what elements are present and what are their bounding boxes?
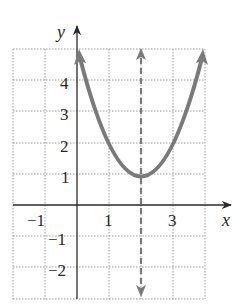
grid	[13, 49, 205, 299]
x-tick-m1: −1	[27, 211, 45, 230]
y-tick-m1: −1	[48, 230, 66, 249]
y-tick-3: 3	[60, 105, 69, 124]
y-axis-label: y	[55, 22, 65, 42]
y-tick-1: 1	[61, 168, 70, 187]
y-tick-4: 4	[60, 74, 69, 93]
x-tick-1: 1	[104, 211, 113, 230]
x-tick-3: 3	[168, 211, 177, 230]
x-axis-label: x	[221, 210, 230, 230]
parabola-chart: y x −1 1 3 4 3 2 1 −1 −2	[0, 0, 239, 308]
y-tick-m2: −2	[48, 261, 66, 280]
y-tick-2: 2	[60, 137, 69, 156]
